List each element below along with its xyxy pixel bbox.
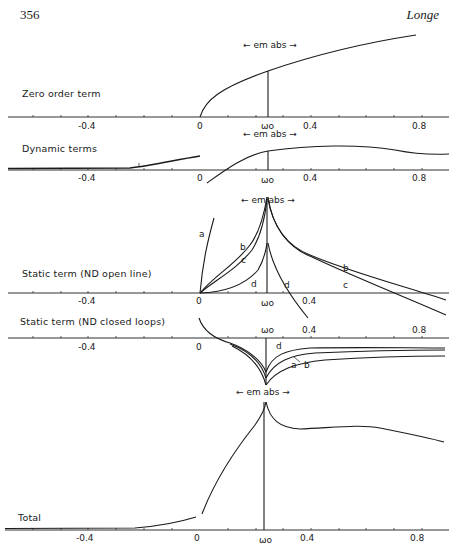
curve-label-b: b — [343, 263, 349, 273]
tick-label: 0.8 — [412, 325, 426, 335]
em-abs-annotation-4: ← em abs → — [236, 387, 290, 397]
tick-label: 0 — [196, 296, 202, 306]
curve-label-d: d — [276, 341, 282, 351]
zero-order-curve — [200, 35, 416, 117]
tick-label: 0.8 — [412, 121, 426, 131]
tick-label: -0.4 — [78, 342, 96, 352]
curve-c-left — [200, 199, 267, 293]
curve-label-c: c — [241, 255, 246, 265]
tick-label: 0.8 — [412, 173, 426, 183]
tick-label: 0.8 — [410, 533, 424, 543]
zero-order-panel — [8, 35, 449, 117]
curve-label-b: b — [304, 360, 310, 370]
omega-label: ωo — [261, 325, 274, 335]
static-closed-panel — [8, 318, 449, 385]
omega-label: ωo — [261, 121, 274, 131]
tick-label: 0.4 — [302, 296, 316, 306]
total-curve-rise — [202, 402, 266, 514]
em-abs-annotation-3: ← em abs → — [241, 195, 295, 205]
curve-b-left — [200, 197, 267, 293]
tick-label: 0 — [197, 173, 203, 183]
tick-label: -0.4 — [78, 296, 96, 306]
total-curve-right — [266, 402, 444, 442]
curve-label-d: d — [284, 280, 290, 290]
tick-label: 0 — [194, 533, 200, 543]
curve-label-a: a — [291, 360, 297, 370]
curve-b-right — [268, 197, 446, 300]
omega-label: ωo — [261, 175, 274, 185]
curve-label-a: a — [199, 229, 205, 239]
tick-label: 0 — [197, 121, 203, 131]
panel-label-dynamic: Dynamic terms — [22, 143, 97, 154]
curve-label-b: b — [240, 242, 246, 252]
omega-label: ωo — [261, 298, 274, 308]
tick-label: 0.4 — [300, 533, 314, 543]
tick-label: 0.4 — [302, 325, 316, 335]
tick-label: 0.4 — [303, 173, 317, 183]
panel-label-zero-order: Zero order term — [22, 88, 101, 99]
panel-label-static-closed: Static term (ND closed loops) — [20, 316, 165, 327]
tick-label: -0.4 — [78, 121, 96, 131]
tick-label: 0 — [196, 342, 202, 352]
em-abs-annotation-1: ← em abs → — [243, 40, 297, 50]
curve-a-left — [230, 344, 266, 378]
curve-label-d: d — [251, 279, 257, 289]
tick-label: 0.4 — [303, 121, 317, 131]
curve-c-right — [268, 199, 446, 315]
tick-label: -0.4 — [76, 533, 94, 543]
curve-label-c: c — [343, 280, 348, 290]
panel-label-static-open: Static term (ND open line) — [22, 268, 152, 279]
total-panel — [5, 402, 449, 530]
static-open-panel — [8, 197, 449, 318]
dynamic-curve-left — [8, 156, 200, 169]
panel-label-total: Total — [18, 512, 41, 523]
omega-label: ωo — [259, 535, 272, 545]
tick-label: -0.4 — [78, 173, 96, 183]
